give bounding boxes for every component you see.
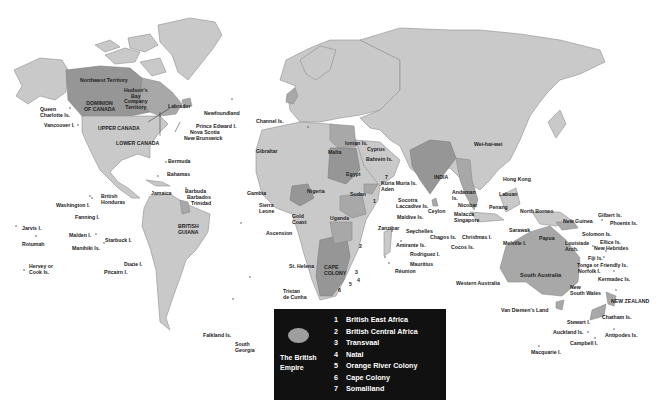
label-malden: Malden I. xyxy=(69,233,91,239)
label-melville: Melville I. xyxy=(503,241,526,247)
marker-5: 5 xyxy=(349,281,352,287)
label-andaman: Andaman Is. xyxy=(452,190,476,201)
label-amirante: Amirante Is. xyxy=(396,243,426,249)
label-new-hebrides: New Hebrides xyxy=(594,246,628,252)
label-manihiki: Manihiki Is. xyxy=(72,246,100,252)
marker-1: 1 xyxy=(373,198,376,204)
label-cape-colony: CAPE COLONY xyxy=(324,265,346,276)
greenland xyxy=(158,18,222,80)
label-hudsons-bay: Hudson's Bay Company Territory xyxy=(124,88,148,110)
label-south-australia: South Australia xyxy=(520,273,561,279)
legend-item: 3Transvaal xyxy=(334,338,418,350)
label-sudan: Sudan xyxy=(350,192,366,198)
label-louisiade: Louisiade Arch. xyxy=(565,241,589,252)
label-new-zealand: NEW ZEALAND xyxy=(611,299,649,305)
label-new-guinea: New Guinea xyxy=(563,219,593,225)
label-gold-coast: Gold Coast xyxy=(292,214,306,225)
label-rodriguez: Rodriguez I. xyxy=(410,252,440,258)
label-bermuda: Bermuda xyxy=(168,159,191,165)
label-chagos: Chagos Is. xyxy=(430,235,456,241)
label-kermadec: Kermadec Is. xyxy=(598,277,630,283)
marker-7: 7 xyxy=(385,174,388,180)
label-wei-hai-wei: Wei-hai-wei xyxy=(474,142,502,148)
label-starbuck: Starbuck I. xyxy=(105,238,132,244)
british-guiana xyxy=(180,200,190,214)
label-fiji: Fiji Is. xyxy=(588,256,603,262)
label-uganda: Uganda xyxy=(330,216,349,222)
label-norfolk: Norfolk I. xyxy=(578,269,600,275)
label-aden: Aden xyxy=(381,187,394,193)
label-ceylon: Ceylon xyxy=(428,209,445,215)
label-hong-kong: Hong Kong xyxy=(503,177,531,183)
legend-title: The British Empire xyxy=(280,353,317,373)
empire-swatch xyxy=(288,328,309,343)
label-washington: Washington I. xyxy=(56,203,90,209)
legend-item: 1British East Africa xyxy=(334,315,418,327)
label-antipodes: Antipodes Is. xyxy=(605,333,638,339)
label-new-brunswick: New Brunswick xyxy=(184,136,222,142)
label-tristan: Tristan de Cunha xyxy=(283,289,307,300)
label-egypt: Egypt xyxy=(346,172,360,178)
label-ducie: Ducie I. xyxy=(124,262,142,268)
label-western-australia: Western Australia xyxy=(456,281,500,287)
marker-2: 2 xyxy=(359,243,362,249)
label-trinidad: Trinidad xyxy=(191,201,211,207)
label-singapore: Singapore xyxy=(454,218,479,224)
alaska xyxy=(14,58,68,104)
label-jarvis: Jarvis I. xyxy=(22,226,41,232)
label-cocos: Cocos Is. xyxy=(451,245,474,251)
label-north-borneo: North Borneo xyxy=(520,209,553,215)
label-van-diemens: Van Diemen's Land xyxy=(501,308,548,314)
label-sarawak: Sarawak xyxy=(509,228,530,234)
label-phoenix: Phoenix Is. xyxy=(610,221,637,227)
south-america xyxy=(142,194,210,330)
label-st-helena: St. Helena xyxy=(289,264,314,270)
marker-4: 4 xyxy=(357,277,360,283)
label-gibraltar: Gibraltar xyxy=(256,149,278,155)
label-cyprus: Cyprus xyxy=(367,147,385,153)
label-fanning: Fanning I. xyxy=(75,215,100,221)
label-solomon: Solomon Is. xyxy=(582,232,611,238)
label-hervey: Hervey or Cook Is. xyxy=(29,264,53,275)
label-zanzibar: Zanzibar xyxy=(378,226,399,232)
legend-item: 7Somaliland xyxy=(334,384,418,396)
label-upper-canada: UPPER CANADA xyxy=(98,126,140,132)
marker-6: 6 xyxy=(338,287,341,293)
label-rotumah: Rotumah xyxy=(22,242,44,248)
label-auckland: Auckland Is. xyxy=(553,330,584,336)
label-south-georgia: South Georgia xyxy=(235,342,255,353)
label-bahamas: Bahamas xyxy=(167,172,190,178)
label-nicobar: Nicobar xyxy=(458,203,477,209)
label-northwest-territory: Northwest Territory xyxy=(80,78,128,84)
label-india: INDIA xyxy=(434,175,448,181)
label-dominion-of-canada: DOMINION OF CANADA xyxy=(84,101,115,112)
label-jamaica: Jamaica xyxy=(151,191,171,197)
label-ionian: Ionian Is. xyxy=(345,141,367,147)
legend-item: 5Orange River Colony xyxy=(334,361,418,373)
label-new-south-wales: New South Wales xyxy=(570,285,601,296)
legend-item: 2British Central Africa xyxy=(334,327,418,339)
label-newfoundland: Newfoundland xyxy=(204,111,240,117)
label-reunion: Réunion xyxy=(395,269,416,275)
label-british-guiana: BRITISH GUIANA xyxy=(178,224,199,235)
british-central-africa xyxy=(330,222,352,244)
label-channel-is: Channel Is. xyxy=(256,119,284,125)
label-vancouver: Vancouver I. xyxy=(44,123,75,129)
label-falkland: Falkland Is. xyxy=(203,333,231,339)
label-labrador: Labrador xyxy=(168,104,190,110)
label-nigeria: Nigeria xyxy=(307,189,325,195)
label-campbell: Campbell I. xyxy=(570,341,598,347)
label-malta: Malta xyxy=(328,150,341,156)
label-pitcairn: Pitcairn I. xyxy=(104,270,127,276)
label-bahrein: Bahrein Is. xyxy=(366,157,393,163)
label-chatham: Chatham Is. xyxy=(602,315,631,321)
label-ascension: Ascension xyxy=(266,231,292,237)
legend-item: 4Natal xyxy=(334,350,418,362)
label-queen-charlotte: Queen Charlotte Is. xyxy=(40,107,70,118)
legend-list: 1British East Africa 2British Central Af… xyxy=(334,315,418,396)
label-macquarie: Macquarie I. xyxy=(531,350,561,356)
label-gambia: Gambia xyxy=(247,191,266,197)
label-papua: Papua xyxy=(539,236,555,242)
label-stewart: Stewart I. xyxy=(567,320,590,326)
label-christmas: Christmas I. xyxy=(462,235,492,241)
